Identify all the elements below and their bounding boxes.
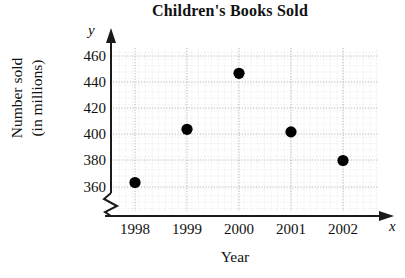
x-tick-label-1999: 1999 xyxy=(159,222,215,237)
y-tick-label-380: 380 xyxy=(62,153,106,168)
x-tick-label-1998: 1998 xyxy=(107,222,163,237)
data-point-1999 xyxy=(181,124,192,135)
data-point-2001 xyxy=(285,126,296,137)
y-tick-label-460: 460 xyxy=(62,49,106,64)
x-tick-label-2000: 2000 xyxy=(211,222,267,237)
x-tick-label-2002: 2002 xyxy=(315,222,371,237)
data-point-2002 xyxy=(337,155,348,166)
data-point-1998 xyxy=(129,177,140,188)
y-tick-label-400: 400 xyxy=(62,127,106,142)
data-point-2000 xyxy=(233,68,244,79)
x-axis-line xyxy=(105,211,394,221)
x-tick-label-2001: 2001 xyxy=(263,222,319,237)
chart-figure: Children's Books Sold y x Number sold (i… xyxy=(0,0,405,278)
y-tick-label-420: 420 xyxy=(62,101,106,116)
y-tick-label-440: 440 xyxy=(62,75,106,90)
y-tick-label-360: 360 xyxy=(62,180,106,195)
